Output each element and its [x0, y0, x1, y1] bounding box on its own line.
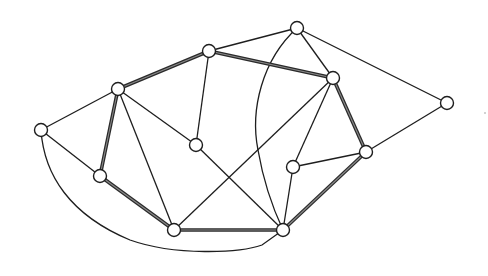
edge-c-e-bold-highlight: [209, 51, 333, 78]
node-h: [287, 161, 300, 174]
edge-e-i-bold-highlight: [333, 78, 366, 152]
edge-j-b-bold-highlight: [100, 89, 118, 176]
edge-b-c-bold-highlight: [118, 51, 209, 89]
stray-mark: [484, 112, 486, 114]
nodes-layer: [35, 22, 454, 237]
node-l: [277, 224, 290, 237]
node-a: [35, 124, 48, 137]
edge-a-b: [41, 89, 118, 130]
graph-diagram: [0, 0, 488, 276]
edge-c-d: [209, 28, 297, 51]
edges-layer: [41, 28, 447, 252]
node-j: [94, 170, 107, 183]
edge-a-l: [41, 130, 283, 252]
edge-c-g: [196, 51, 209, 145]
edge-g-l: [196, 145, 283, 230]
node-c: [203, 45, 216, 58]
node-d: [291, 22, 304, 35]
edge-d-l: [256, 28, 297, 230]
edge-f-i: [366, 103, 447, 152]
node-b: [112, 83, 125, 96]
node-i: [360, 146, 373, 159]
node-f: [441, 97, 454, 110]
node-g: [190, 139, 203, 152]
node-e: [327, 72, 340, 85]
edge-e-h: [293, 78, 333, 167]
node-k: [168, 224, 181, 237]
